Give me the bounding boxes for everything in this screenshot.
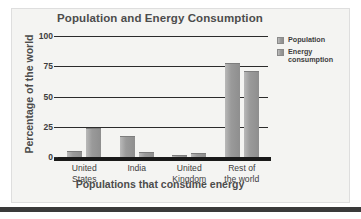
y-tick-mark-0 [54,157,58,158]
legend-swatch-icon [277,37,284,44]
x-axis-title: Populations that consume energy [30,178,290,190]
legend-item-energy-consumption: Energyconsumption [277,48,349,64]
legend-swatch-icon [277,49,284,56]
x-tick-line: India [111,163,164,174]
y-tick-mark-50 [54,97,58,98]
bar-energy-consumption-united-states [86,128,101,157]
legend-label: Energyconsumption [288,48,333,64]
y-tick-label-0: 0 [48,152,53,162]
legend-item-population: Population [277,36,349,44]
bottom-margin [0,212,361,219]
chart-figure: Population and Energy Consumption Percen… [0,0,361,219]
bar-energy-consumption-rest-of-the-world [244,71,259,157]
chart-title: Population and Energy Consumption [30,12,290,24]
y-tick-mark-25 [54,127,58,128]
y-tick-mark-100 [54,36,58,37]
bar-energy-consumption-united-kingdom [191,153,206,157]
gridline-100 [58,36,268,37]
x-tick-label-india: India [111,163,164,174]
x-tick-line: Rest of [216,163,269,174]
y-axis-title: Percentage of the world [23,29,35,159]
x-axis-baseline [54,157,271,161]
bar-population-rest-of-the-world [225,63,240,157]
chart-legend: PopulationEnergyconsumption [277,36,349,69]
bar-population-india [120,136,135,157]
y-tick-label-50: 50 [44,92,53,102]
bar-energy-consumption-india [139,152,154,157]
bar-population-united-kingdom [172,155,187,157]
legend-label: Population [288,36,325,44]
y-tick-label-100: 100 [39,31,53,41]
y-tick-label-25: 25 [44,122,53,132]
plot-area: 0255075100UnitedStatesIndiaUnitedKingdom… [58,36,268,157]
x-tick-line: United [58,163,111,174]
y-tick-label-75: 75 [44,61,53,71]
x-tick-line: United [163,163,216,174]
bar-population-united-states [67,151,82,157]
y-tick-mark-75 [54,66,58,67]
